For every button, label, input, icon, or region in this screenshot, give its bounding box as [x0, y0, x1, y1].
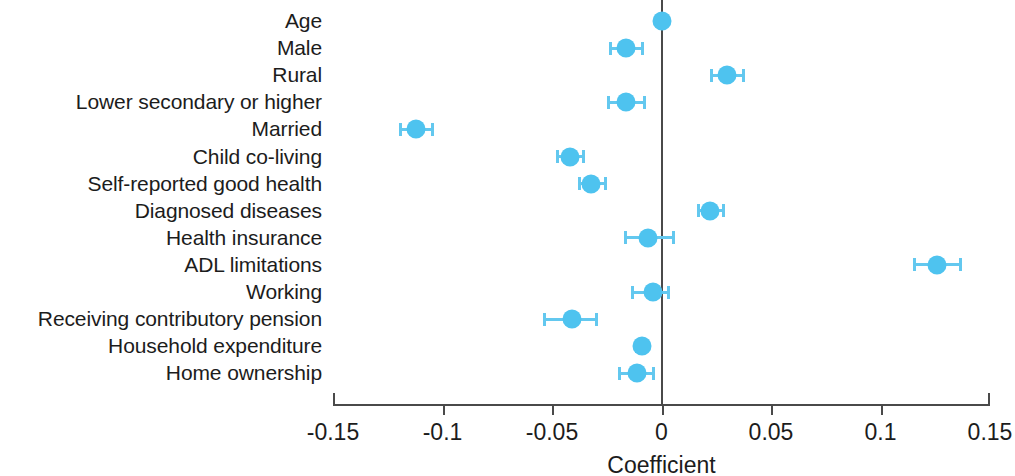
x-axis-tick-label: -0.1 — [423, 421, 463, 444]
x-axis-tick — [881, 406, 883, 415]
x-axis-tick-label: 0.1 — [865, 421, 897, 444]
x-axis-tick — [443, 406, 445, 415]
x-axis-tick-label: -0.15 — [307, 421, 359, 444]
x-axis-tick-label: -0.05 — [526, 421, 578, 444]
x-axis-title: Coefficient — [0, 454, 1015, 476]
x-axis: -0.15-0.1-0.0500.050.10.15 — [0, 0, 1015, 476]
x-axis-tick — [662, 406, 664, 415]
x-axis-tick — [552, 406, 554, 415]
x-axis-tick-label: 0.05 — [749, 421, 794, 444]
x-axis-tick-label: 0 — [655, 421, 668, 444]
x-axis-tick — [333, 393, 335, 404]
x-axis-tick-label: 0.15 — [968, 421, 1013, 444]
coefficient-forest-plot: AgeMaleRuralLower secondary or higherMar… — [0, 0, 1015, 476]
x-axis-tick — [771, 406, 773, 415]
x-axis-tick — [988, 393, 990, 404]
